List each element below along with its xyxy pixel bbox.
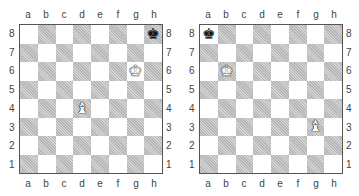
square-d8[interactable] [253, 25, 271, 44]
square-g4[interactable] [127, 99, 145, 118]
square-c4[interactable] [56, 99, 74, 118]
square-a8[interactable] [20, 25, 38, 44]
square-b6[interactable] [38, 62, 56, 81]
square-g1[interactable] [127, 155, 145, 174]
square-e3[interactable] [271, 118, 289, 137]
square-h5[interactable] [324, 81, 342, 100]
square-g6[interactable] [307, 62, 325, 81]
square-g5[interactable] [127, 81, 145, 100]
square-b7[interactable] [38, 44, 56, 63]
square-b1[interactable] [218, 155, 236, 174]
square-h3[interactable] [324, 118, 342, 137]
square-d6[interactable] [73, 62, 91, 81]
square-a7[interactable] [20, 44, 38, 63]
square-e8[interactable] [91, 25, 109, 44]
square-g1[interactable] [307, 155, 325, 174]
square-b4[interactable] [218, 99, 236, 118]
square-c6[interactable] [56, 62, 74, 81]
square-d7[interactable] [253, 44, 271, 63]
square-h1[interactable] [144, 155, 162, 174]
square-g7[interactable] [307, 44, 325, 63]
square-f7[interactable] [289, 44, 307, 63]
square-a6[interactable] [20, 62, 38, 81]
square-f6[interactable] [289, 62, 307, 81]
square-h8[interactable] [324, 25, 342, 44]
square-a8[interactable]: ♚ [200, 25, 218, 44]
square-g7[interactable] [127, 44, 145, 63]
square-d2[interactable] [73, 136, 91, 155]
square-f5[interactable] [289, 81, 307, 100]
square-f1[interactable] [289, 155, 307, 174]
square-f4[interactable] [289, 99, 307, 118]
square-b7[interactable] [218, 44, 236, 63]
square-e7[interactable] [91, 44, 109, 63]
square-h4[interactable] [144, 99, 162, 118]
square-f2[interactable] [109, 136, 127, 155]
square-a7[interactable] [200, 44, 218, 63]
square-f5[interactable] [109, 81, 127, 100]
square-a6[interactable] [200, 62, 218, 81]
square-h2[interactable] [324, 136, 342, 155]
square-e6[interactable] [271, 62, 289, 81]
square-e5[interactable] [271, 81, 289, 100]
square-b5[interactable] [38, 81, 56, 100]
square-a3[interactable] [20, 118, 38, 137]
square-e1[interactable] [91, 155, 109, 174]
square-g6[interactable]: ♚ [127, 62, 145, 81]
square-h8[interactable]: ♚ [144, 25, 162, 44]
square-d3[interactable] [73, 118, 91, 137]
square-a4[interactable] [200, 99, 218, 118]
square-g8[interactable] [127, 25, 145, 44]
square-f7[interactable] [109, 44, 127, 63]
square-h6[interactable] [324, 62, 342, 81]
square-f8[interactable] [289, 25, 307, 44]
square-c2[interactable] [56, 136, 74, 155]
black-king-icon[interactable]: ♚ [146, 27, 159, 42]
square-f2[interactable] [289, 136, 307, 155]
square-b8[interactable] [218, 25, 236, 44]
square-d1[interactable] [253, 155, 271, 174]
square-h3[interactable] [144, 118, 162, 137]
square-c1[interactable] [236, 155, 254, 174]
square-f6[interactable] [109, 62, 127, 81]
square-a2[interactable] [20, 136, 38, 155]
square-d8[interactable] [73, 25, 91, 44]
square-b5[interactable] [218, 81, 236, 100]
square-f1[interactable] [109, 155, 127, 174]
square-g8[interactable] [307, 25, 325, 44]
square-g5[interactable] [307, 81, 325, 100]
square-c5[interactable] [56, 81, 74, 100]
square-c3[interactable] [56, 118, 74, 137]
square-b1[interactable] [38, 155, 56, 174]
square-c8[interactable] [236, 25, 254, 44]
square-d4[interactable]: ♝ [73, 99, 91, 118]
square-d4[interactable] [253, 99, 271, 118]
square-g2[interactable] [127, 136, 145, 155]
square-d2[interactable] [253, 136, 271, 155]
square-c6[interactable] [236, 62, 254, 81]
square-e6[interactable] [91, 62, 109, 81]
square-a5[interactable] [20, 81, 38, 100]
square-f3[interactable] [109, 118, 127, 137]
square-e5[interactable] [91, 81, 109, 100]
square-e2[interactable] [271, 136, 289, 155]
square-d5[interactable] [253, 81, 271, 100]
square-c3[interactable] [236, 118, 254, 137]
square-a5[interactable] [200, 81, 218, 100]
square-a1[interactable] [20, 155, 38, 174]
white-king-icon[interactable]: ♚ [220, 64, 233, 79]
square-g3[interactable] [127, 118, 145, 137]
white-bishop-icon[interactable]: ♝ [75, 101, 88, 116]
square-e2[interactable] [91, 136, 109, 155]
square-h7[interactable] [324, 44, 342, 63]
square-h6[interactable] [144, 62, 162, 81]
square-b2[interactable] [218, 136, 236, 155]
square-c5[interactable] [236, 81, 254, 100]
square-h7[interactable] [144, 44, 162, 63]
square-c2[interactable] [236, 136, 254, 155]
square-h2[interactable] [144, 136, 162, 155]
square-a1[interactable] [200, 155, 218, 174]
square-g4[interactable] [307, 99, 325, 118]
square-c4[interactable] [236, 99, 254, 118]
square-h1[interactable] [324, 155, 342, 174]
